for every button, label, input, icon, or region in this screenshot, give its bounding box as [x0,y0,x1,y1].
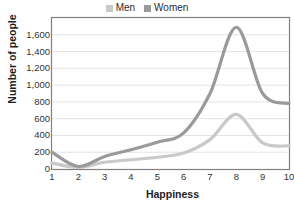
line-chart: Men Women Number of people 0200400600800… [0,0,294,208]
plot-border [52,18,290,170]
series-line-women [52,27,289,166]
data-series [52,27,289,167]
plot-area [0,0,294,208]
